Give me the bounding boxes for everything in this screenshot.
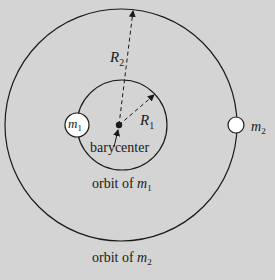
label-r2: R2 (109, 49, 124, 68)
barycenter-dot (116, 122, 122, 128)
label-barycenter: barycenter (90, 140, 149, 155)
label-orbit-m1: orbit of m1 (92, 176, 152, 193)
orbit-diagram: R2 R1 m1 m2 barycenter orbit of m1 orbit… (0, 0, 275, 280)
label-orbit-m2: orbit of m2 (92, 250, 152, 267)
body-m2 (228, 117, 244, 133)
r2-arrow (119, 11, 133, 125)
label-r1: R1 (139, 112, 154, 131)
label-m2: m2 (251, 119, 266, 136)
